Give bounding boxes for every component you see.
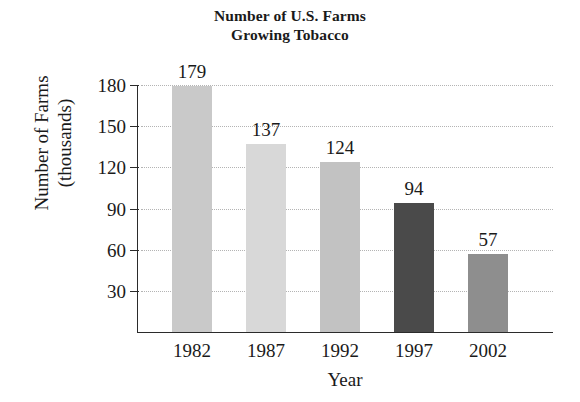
x-tick-label: 1997	[395, 341, 433, 360]
bar-1992: 1241992	[320, 162, 360, 332]
y-axis-line	[137, 85, 138, 333]
bar-value-label: 179	[178, 62, 207, 81]
y-axis-title-line-1: Number of Farms	[30, 28, 53, 258]
y-tick-label: 60	[107, 240, 126, 259]
x-tick-label: 2002	[469, 341, 507, 360]
y-tick-label: 180	[98, 76, 127, 95]
y-tick-label: 30	[107, 281, 126, 300]
plot-area: 3060901201501801791982137198712419929419…	[137, 85, 553, 332]
x-tick-label: 1987	[247, 341, 285, 360]
y-tick-label: 90	[107, 199, 126, 218]
bar-1997: 941997	[394, 203, 434, 332]
bar-1987: 1371987	[246, 144, 286, 332]
chart-title: Number of U.S. Farms Growing Tobacco	[140, 6, 440, 44]
y-axis-title-line-2: (thousands)	[53, 28, 76, 258]
bar-1982: 1791982	[172, 86, 212, 332]
bar-value-label: 124	[326, 138, 355, 157]
chart-title-line-2: Growing Tobacco	[140, 25, 440, 44]
bar-chart-figure: Number of U.S. Farms Growing Tobacco Num…	[0, 0, 580, 402]
x-tick-label: 1992	[321, 341, 359, 360]
x-tick-label: 1982	[173, 341, 211, 360]
bar-value-label: 57	[479, 230, 498, 249]
y-tick-label: 120	[98, 158, 127, 177]
chart-title-line-1: Number of U.S. Farms	[140, 6, 440, 25]
y-axis-title: Number of Farms (thousands)	[30, 28, 76, 258]
bar-value-label: 137	[252, 120, 281, 139]
bar-2002: 572002	[468, 254, 508, 332]
x-axis-line	[137, 332, 553, 333]
bar-value-label: 94	[405, 179, 424, 198]
y-tick-label: 150	[98, 117, 127, 136]
x-axis-title: Year	[137, 370, 553, 390]
